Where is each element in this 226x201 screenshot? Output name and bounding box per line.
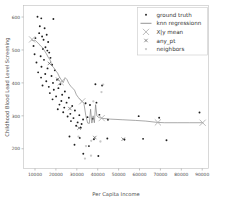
series-neighbors — [77, 83, 104, 159]
y-tick-label: 200 — [12, 146, 21, 151]
y-axis-label: Childhood Blood Lead Level Screening — [4, 37, 11, 136]
x-tick-label: 70000 — [153, 172, 167, 177]
x-tick-label: 50000 — [112, 172, 126, 177]
x-axis-ticks: 1000020000300004000050000600007000080000… — [28, 169, 209, 177]
y-axis-ticks: 200300400500600 — [12, 15, 24, 152]
legend-label: any_pt — [157, 38, 177, 45]
y-tick-label: 300 — [12, 114, 21, 119]
figure: 1000020000300004000050000600007000080000… — [0, 0, 226, 201]
series-any-pt — [48, 62, 125, 141]
y-tick-label: 500 — [12, 48, 21, 53]
x-tick-label: 40000 — [91, 172, 105, 177]
x-tick-label: 10000 — [28, 172, 42, 177]
x-tick-label: 80000 — [174, 172, 188, 177]
legend-label: ground truth — [157, 12, 193, 19]
scatter-plot: 1000020000300004000050000600007000080000… — [0, 0, 226, 201]
legend-label: X|y mean — [157, 29, 184, 36]
x-tick-label: 30000 — [70, 172, 84, 177]
x-tick-label: 90000 — [195, 172, 209, 177]
y-tick-label: 400 — [12, 81, 21, 86]
y-tick-label: 600 — [12, 15, 21, 20]
x-tick-label: 20000 — [49, 172, 63, 177]
legend-label: knn regressionn — [157, 20, 202, 27]
legend-label: neighbors — [157, 46, 185, 53]
x-axis-label: Per Capita Income — [92, 191, 139, 198]
x-tick-label: 60000 — [133, 172, 147, 177]
legend: ground truthknn regressionnX|y meanany_p… — [138, 8, 208, 56]
